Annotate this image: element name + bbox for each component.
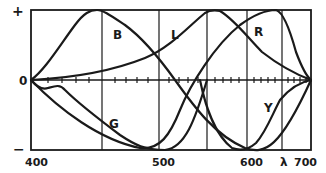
curve-label-R: R (254, 25, 263, 39)
x-label-500: 500 (152, 156, 175, 169)
x-label-lambda: λ (280, 155, 288, 169)
curve-label-B: B (113, 28, 122, 42)
x-label-400: 400 (25, 156, 48, 169)
y-label-minus: − (13, 141, 25, 157)
y-label-zero: 0 (19, 74, 27, 88)
x-label-600: 600 (240, 156, 263, 169)
curve-label-Y: Y (263, 101, 273, 115)
curve-G (31, 80, 207, 150)
x-label-700: 700 (294, 156, 317, 169)
curve-label-G: G (109, 117, 119, 131)
curve-label-L: L (171, 28, 179, 42)
spectral-response-chart: + 0 − 400 500 600 λ 700 B L R G Y (0, 0, 326, 173)
y-label-plus: + (12, 3, 24, 19)
curve-L (31, 10, 311, 80)
